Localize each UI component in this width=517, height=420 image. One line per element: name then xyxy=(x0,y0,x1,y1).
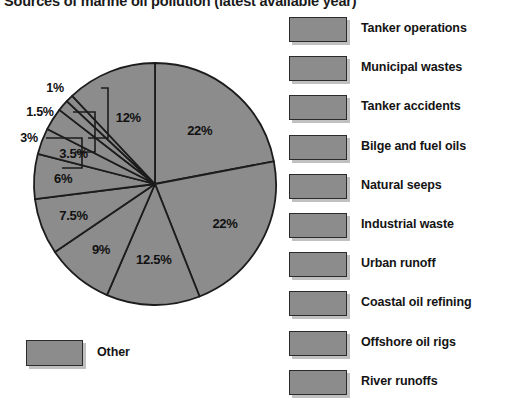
legend-item-0[interactable]: Tanker operations xyxy=(289,17,517,50)
legend-swatch-other xyxy=(26,340,83,366)
legend-item-1[interactable]: Municipal wastes xyxy=(289,56,517,89)
legend-label-7: Coastal oil refining xyxy=(361,295,472,309)
legend-item-other[interactable]: Other xyxy=(26,340,206,374)
pie-label-1: 22% xyxy=(212,215,237,230)
pie-label-2: 12.5% xyxy=(136,252,171,267)
legend-swatch-9 xyxy=(289,370,347,395)
pie-label-4: 7.5% xyxy=(59,207,87,222)
legend-label-8: Offshore oil rigs xyxy=(361,335,456,349)
pie-label-0: 22% xyxy=(187,122,212,137)
legend-item-6[interactable]: Urban runoff xyxy=(289,252,517,285)
legend-label-other: Other xyxy=(97,345,130,359)
pie-label-6: 3.5% xyxy=(59,146,87,161)
legend-swatch-5 xyxy=(289,213,347,238)
legend-label-2: Tanker accidents xyxy=(361,99,461,113)
legend-item-2[interactable]: Tanker accidents xyxy=(289,95,517,128)
pie-label-5: 6% xyxy=(54,171,72,186)
legend-swatch-8 xyxy=(289,331,347,356)
legend-item-9[interactable]: River runoffs xyxy=(289,370,517,403)
legend-item-3[interactable]: Bilge and fuel oils xyxy=(289,135,517,168)
legend-label-0: Tanker operations xyxy=(361,21,467,35)
legend-label-9: River runoffs xyxy=(361,374,438,388)
legend-swatch-1 xyxy=(289,56,347,81)
legend-swatch-4 xyxy=(289,174,347,199)
legend-item-5[interactable]: Industrial waste xyxy=(289,213,517,246)
pie-label-9: 1% xyxy=(46,81,63,95)
legend-item-8[interactable]: Offshore oil rigs xyxy=(289,331,517,364)
pie-label-8: 1.5% xyxy=(26,105,53,119)
legend-label-3: Bilge and fuel oils xyxy=(361,139,466,153)
legend-swatch-7 xyxy=(289,291,347,316)
legend-label-1: Municipal wastes xyxy=(361,60,462,74)
legend-swatch-6 xyxy=(289,252,347,277)
legend-swatch-2 xyxy=(289,95,347,120)
legend-swatch-0 xyxy=(289,17,347,42)
legend: Tanker operationsMunicipal wastesTanker … xyxy=(289,17,517,411)
legend-label-6: Urban runoff xyxy=(361,256,435,270)
legend-label-5: Industrial waste xyxy=(361,217,454,231)
legend-item-7[interactable]: Coastal oil refining xyxy=(289,291,517,324)
legend-label-4: Natural seeps xyxy=(361,178,442,192)
chart-page: Sources of marine oil pollution (latest … xyxy=(0,0,517,420)
pie-label-7: 3% xyxy=(20,131,37,145)
pie-label-3: 9% xyxy=(92,242,110,257)
pie-label-10: 12% xyxy=(116,109,141,124)
legend-swatch-3 xyxy=(289,135,347,160)
legend-item-4[interactable]: Natural seeps xyxy=(289,174,517,207)
